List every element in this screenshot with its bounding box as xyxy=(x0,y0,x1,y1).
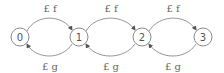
edge-2-to-3 xyxy=(149,18,196,31)
edge-0-to-1 xyxy=(27,18,72,31)
edge-1-to-2 xyxy=(86,18,135,31)
edge-3-to-2 xyxy=(149,44,196,56)
edge-label-1-0: £ g xyxy=(42,61,59,72)
node-3: 3 xyxy=(194,28,212,46)
node-label: 2 xyxy=(139,32,145,43)
edge-label-2-1: £ g xyxy=(103,61,120,72)
node-label: 1 xyxy=(76,32,82,43)
edge-label-1-2: £ f xyxy=(104,3,119,14)
edge-label-0-1: £ f xyxy=(43,3,58,14)
node-label: 3 xyxy=(200,32,206,43)
node-label: 0 xyxy=(17,32,23,43)
edge-2-to-1 xyxy=(86,44,135,56)
edge-label-3-2: £ g xyxy=(165,61,182,72)
node-1: 1 xyxy=(70,28,88,46)
state-diagram: £ f £ g £ f £ g £ f £ g 0 1 2 3 xyxy=(0,0,224,73)
node-2: 2 xyxy=(133,28,151,46)
edge-1-to-0 xyxy=(27,44,72,56)
edge-label-2-3: £ f xyxy=(166,3,181,14)
node-0: 0 xyxy=(11,28,29,46)
